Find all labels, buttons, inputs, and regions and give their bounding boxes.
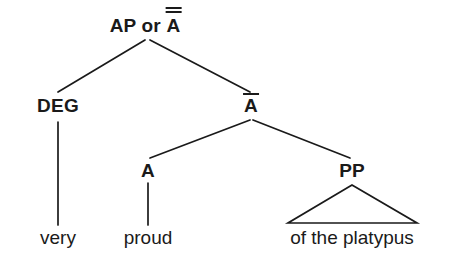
node-root-letter-double-bar: A	[166, 15, 180, 35]
edge-root-to-abar	[150, 40, 250, 92]
terminal-of-the-platypus: of the platypus	[290, 228, 414, 247]
syntax-tree-figure: AP or A DEG A A PP very proud of the pla…	[0, 0, 449, 267]
node-a-head-label: A	[141, 160, 155, 181]
node-pp: PP	[339, 161, 365, 180]
pp-triangle-icon	[288, 185, 417, 223]
node-a-head: A	[141, 161, 155, 180]
node-a-bar: A	[244, 95, 258, 115]
edge-abar-to-pp	[253, 120, 350, 158]
node-pp-label: PP	[339, 160, 365, 181]
node-deg: DEG	[37, 96, 79, 115]
terminal-proud-text: proud	[124, 227, 173, 248]
node-a-bar-letter: A	[244, 95, 258, 115]
terminal-proud: proud	[124, 228, 173, 247]
edge-root-to-deg	[58, 40, 145, 92]
terminal-of-the-platypus-text: of the platypus	[290, 227, 414, 248]
node-deg-label: DEG	[37, 95, 79, 116]
node-root-prefix: AP or	[110, 15, 167, 36]
edge-abar-to-a	[150, 120, 250, 158]
node-root-ap: AP or A	[110, 15, 181, 35]
terminal-very: very	[40, 228, 76, 247]
terminal-very-text: very	[40, 227, 76, 248]
